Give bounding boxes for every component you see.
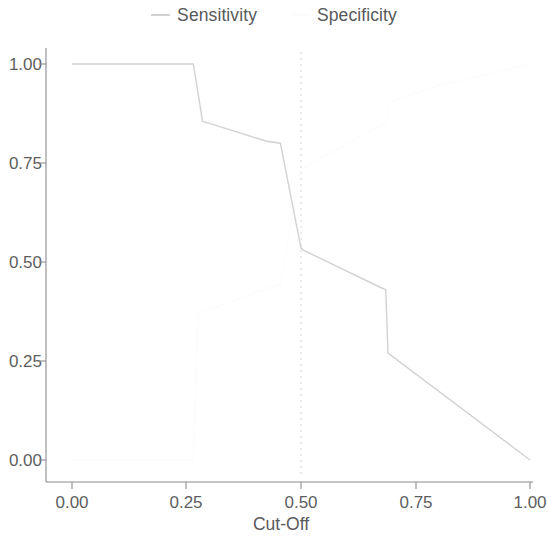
- x-tick-label-2: 0.25: [169, 493, 202, 512]
- x-axis-tick-labels: 0.00 0.25 0.50 0.75 1.00: [55, 493, 546, 512]
- x-tick-label-5: 1.00: [513, 493, 546, 512]
- y-tick-label-1: 1.00: [9, 55, 42, 74]
- x-tick-label-4: 0.75: [399, 493, 432, 512]
- x-tick-label-3: 0.50: [284, 493, 317, 512]
- y-axis-ticks: [39, 64, 46, 460]
- y-tick-label-2: 0.75: [9, 154, 42, 173]
- y-tick-label-3: 0.50: [9, 253, 42, 272]
- x-tick-label-1: 0.00: [55, 493, 88, 512]
- y-axis-tick-labels: 1.00 0.75 0.50 0.25 0.00: [9, 55, 42, 470]
- x-axis-ticks: [72, 482, 530, 489]
- y-tick-label-5: 0.00: [9, 451, 42, 470]
- roc-cutoff-chart: Sensitivity Specificity 1.00 0.75 0.50 0…: [0, 0, 548, 538]
- y-tick-label-4: 0.25: [9, 352, 42, 371]
- plot-canvas: 1.00 0.75 0.50 0.25 0.00 0.00 0.25 0.50: [0, 0, 548, 538]
- x-axis-title: Cut-Off: [253, 514, 309, 534]
